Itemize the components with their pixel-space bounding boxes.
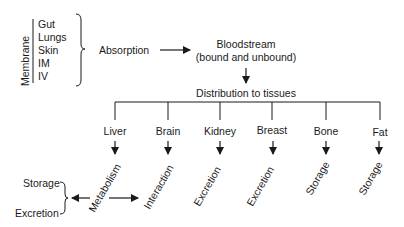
output-storage: Storage bbox=[23, 177, 60, 189]
tissue-fat: Fat bbox=[372, 126, 387, 138]
bloodstream-sublabel: (bound and unbound) bbox=[196, 51, 296, 63]
output-excretion: Excretion bbox=[15, 207, 59, 219]
route-skin: Skin bbox=[38, 44, 58, 56]
membrane-label: Membrane bbox=[19, 36, 31, 86]
route-gut: Gut bbox=[38, 18, 55, 30]
absorption-label: Absorption bbox=[99, 44, 149, 56]
distribution-label: Distribution to tissues bbox=[196, 87, 296, 99]
route-im: IM bbox=[38, 57, 50, 69]
bloodstream-label: Bloodstream bbox=[217, 38, 276, 50]
route-lungs: Lungs bbox=[38, 31, 67, 43]
tissue-kidney: Kidney bbox=[204, 125, 236, 137]
tissue-breast: Breast bbox=[257, 124, 287, 136]
tissue-bone: Bone bbox=[314, 125, 339, 137]
tissue-brain: Brain bbox=[156, 125, 181, 137]
route-iv: IV bbox=[38, 70, 48, 82]
tissue-liver: Liver bbox=[104, 125, 127, 137]
